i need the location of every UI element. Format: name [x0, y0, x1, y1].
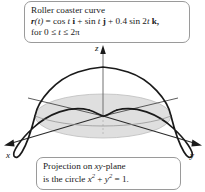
projection-suffix: -plane — [103, 161, 126, 171]
xy-plane-symbol: xy — [95, 161, 103, 171]
y-axis-arrow-icon — [191, 140, 202, 147]
formula-plus-sin: + sin — [75, 16, 98, 26]
caption-box-curve-definition: Roller coaster curve r(t) = cos t i + si… — [24, 1, 190, 43]
caption-bottom-line-2: is the circle x2 + y2 = 1. — [43, 172, 175, 185]
x-axis-label: x — [6, 150, 10, 160]
projection-prefix: Projection on — [43, 161, 95, 171]
caption-bottom-line-1: Projection on xy-plane — [43, 161, 175, 172]
formula-argument: (t) — [35, 16, 44, 26]
circle-equals-one: = 1. — [112, 174, 129, 184]
formula-plus-sin2t: + 0.4 sin 2 — [106, 16, 147, 26]
domain-prefix: for 0 — [31, 27, 51, 37]
circle-prefix: is the circle — [43, 174, 88, 184]
circle-plus: + — [95, 174, 105, 184]
x-axis-arrow-icon — [4, 140, 15, 147]
z-axis-arrow-icon — [100, 45, 106, 54]
z-axis-label: z — [95, 43, 99, 53]
formula-equals: = cos — [43, 16, 67, 26]
y-axis-label: y — [190, 150, 194, 160]
domain-upper-bound: 2π — [68, 27, 80, 37]
caption-top-line-title: Roller coaster curve — [31, 5, 184, 16]
caption-top-line-domain: for 0 ≤ t ≤ 2π — [31, 27, 184, 38]
caption-top-line-formula: r(t) = cos t i + sin t j + 0.4 sin 2t k, — [31, 16, 184, 27]
unit-vector-k: k, — [149, 16, 159, 26]
caption-box-projection: Projection on xy-plane is the circle x2 … — [36, 157, 181, 190]
